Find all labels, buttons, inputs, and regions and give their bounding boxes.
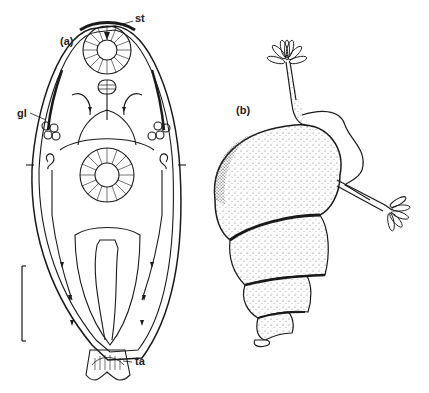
annotation-ta: ta bbox=[135, 356, 145, 367]
panel-b-snail bbox=[214, 40, 410, 347]
panel-b-label: (b) bbox=[236, 105, 250, 116]
annotation-st: st bbox=[135, 13, 145, 24]
panel-a-organism bbox=[26, 21, 186, 380]
figure-drawing bbox=[0, 0, 429, 393]
panel-a-label: (a) bbox=[60, 36, 73, 47]
biological-figure: (a) st gl ta (b) bbox=[0, 0, 429, 393]
lower-tentacle-crown bbox=[386, 195, 410, 231]
annotation-gl: gl bbox=[17, 108, 27, 119]
upper-tentacle-crown bbox=[267, 40, 308, 66]
scale-bar bbox=[22, 266, 26, 341]
